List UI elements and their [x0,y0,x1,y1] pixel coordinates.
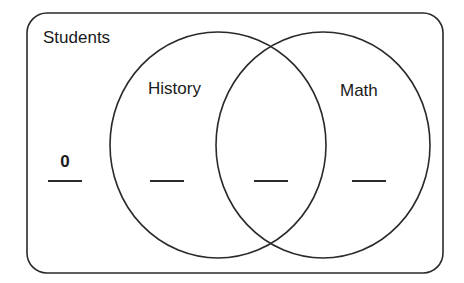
history-label: History [148,80,201,97]
both-region-blank[interactable] [254,180,288,182]
universe-label: Students [43,29,110,46]
universe-rectangle [27,13,443,273]
outside-region-blank[interactable] [48,180,82,182]
math-circle [216,32,430,258]
history-circle [110,32,326,258]
math-label: Math [340,82,378,99]
outside-region-value: 0 [48,153,82,170]
history-only-blank[interactable] [150,180,184,182]
math-only-blank[interactable] [352,180,386,182]
